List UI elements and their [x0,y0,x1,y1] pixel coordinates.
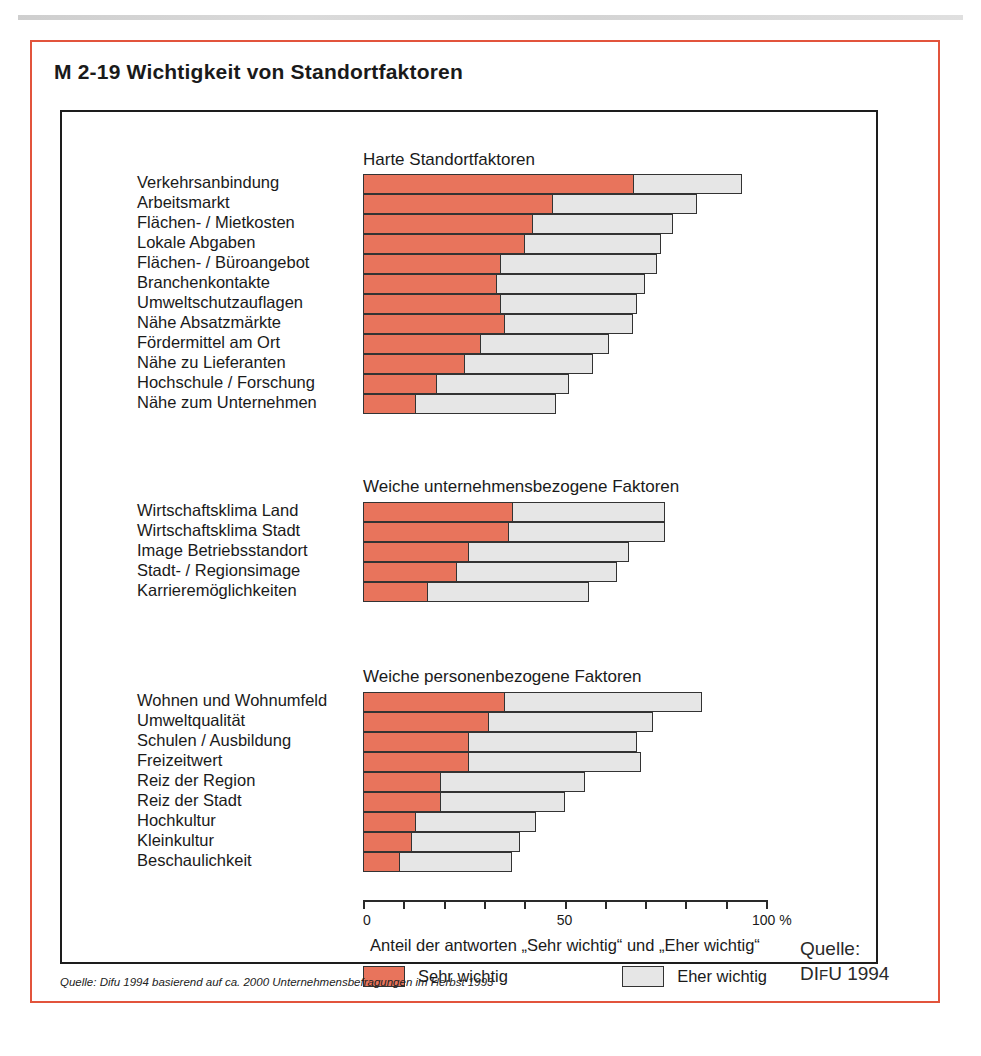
chart-row-label: Nähe Absatzmärkte [137,313,281,332]
chart-row: Freizeitwert [62,752,876,772]
bar-segment-sehr-wichtig [364,215,533,233]
legend-swatch-icon-eher-wichtig [622,966,664,987]
chart-row: Stadt- / Regionsimage [62,562,876,582]
bar-segment-sehr-wichtig [364,713,489,731]
bar-segment-eher-wichtig [513,503,664,521]
x-axis-tick-label: 0 [363,912,371,928]
figure-title: M 2-19 Wichtigkeit von Standortfaktoren [54,60,463,84]
chart-bar [363,832,520,852]
chart-bar [363,522,665,542]
chart-row-label: Branchenkontakte [137,273,270,292]
section-title: Weiche unternehmensbezogene Faktoren [363,477,679,497]
chart-row: Flächen- / Mietkosten [62,214,876,234]
chart-bar [363,194,697,214]
chart-bar [363,274,645,294]
bar-segment-sehr-wichtig [364,523,509,541]
bar-segment-sehr-wichtig [364,853,400,871]
chart-row-label: Hochkultur [137,811,216,830]
chart-row: Nähe Absatzmärkte [62,314,876,334]
section-title: Weiche personenbezogene Faktoren [363,667,641,687]
chart-row-label: Karrieremöglichkeiten [137,581,297,600]
bar-segment-eher-wichtig [441,773,584,791]
x-axis-tick [685,900,687,909]
chart-row-label: Wirtschaftsklima Stadt [137,521,300,540]
x-axis-tick [444,900,446,909]
chart-row: Branchenkontakte [62,274,876,294]
bar-segment-sehr-wichtig [364,503,513,521]
chart-row: Nähe zum Unternehmen [62,394,876,414]
chart-bar [363,174,742,194]
scan-rule-top [18,15,963,20]
chart-bar [363,542,629,562]
bar-segment-eher-wichtig [553,195,696,213]
bar-segment-eher-wichtig [416,813,535,831]
chart-bar [363,502,665,522]
chart-row-label: Wohnen und Wohnumfeld [137,691,327,710]
chart-row-label: Verkehrsanbindung [137,173,279,192]
bar-segment-sehr-wichtig [364,275,497,293]
chart-row: Arbeitsmarkt [62,194,876,214]
chart-row-label: Reiz der Region [137,771,255,790]
bar-segment-eher-wichtig [428,583,587,601]
bar-segment-eher-wichtig [497,275,644,293]
chart-bar [363,394,556,414]
chart-bar [363,254,657,274]
bar-segment-eher-wichtig [501,295,636,313]
chart-plot-area: Harte StandortfaktorenVerkehrsanbindungA… [60,110,878,964]
x-axis-tick [363,900,365,909]
chart-row-label: Hochschule / Forschung [137,373,315,392]
chart-row-label: Wirtschaftsklima Land [137,501,298,520]
chart-row-label: Umweltqualität [137,711,245,730]
chart-bar [363,374,569,394]
bar-segment-eher-wichtig [525,235,660,253]
chart-bar [363,582,589,602]
chart-row: Nähe zu Lieferanten [62,354,876,374]
chart-row-label: Fördermittel am Ort [137,333,280,352]
chart-row: Umweltschutzauflagen [62,294,876,314]
bar-segment-eher-wichtig [509,523,664,541]
bar-segment-sehr-wichtig [364,195,553,213]
bar-segment-eher-wichtig [533,215,672,233]
chart-bar [363,812,536,832]
x-axis-tick-label: 50 [557,912,573,928]
chart-row: Umweltqualität [62,712,876,732]
bar-segment-eher-wichtig [501,255,656,273]
chart-row: Lokale Abgaben [62,234,876,254]
chart-row-label: Reiz der Stadt [137,791,242,810]
chart-bar [363,334,609,354]
bar-segment-sehr-wichtig [364,355,465,373]
bar-segment-eher-wichtig [416,395,555,413]
chart-row: Kleinkultur [62,832,876,852]
x-axis-tick [565,900,567,909]
credit-prefix: DI [800,963,819,984]
chart-row: Fördermittel am Ort [62,334,876,354]
bar-segment-sehr-wichtig [364,753,469,771]
chart-row: Beschaulichkeit [62,852,876,872]
chart-row-label: Kleinkultur [137,831,214,850]
bar-segment-eher-wichtig [489,713,652,731]
chart-row-label: Schulen / Ausbildung [137,731,291,750]
x-axis-tick [403,900,405,909]
bar-segment-eher-wichtig [465,355,592,373]
bar-segment-eher-wichtig [469,543,628,561]
bar-segment-sehr-wichtig [364,563,457,581]
chart-row-label: Arbeitsmarkt [137,193,230,212]
chart-row-label: Umweltschutzauflagen [137,293,303,312]
bar-segment-sehr-wichtig [364,543,469,561]
x-axis-tick [484,900,486,909]
chart-row: Wirtschaftsklima Stadt [62,522,876,542]
bar-segment-eher-wichtig [400,853,511,871]
chart-bar [363,752,641,772]
chart-bar [363,294,637,314]
chart-row: Hochkultur [62,812,876,832]
bar-segment-eher-wichtig [457,563,616,581]
chart-row: Hochschule / Forschung [62,374,876,394]
chart-row-label: Freizeitwert [137,751,222,770]
bar-segment-sehr-wichtig [364,335,481,353]
bar-segment-sehr-wichtig [364,375,437,393]
bar-segment-sehr-wichtig [364,693,505,711]
chart-bar [363,214,673,234]
chart-bar [363,692,702,712]
x-axis-tick [726,900,728,909]
chart-bar [363,792,565,812]
